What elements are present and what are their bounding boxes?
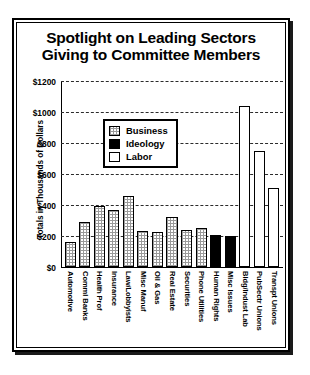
- bar-slot: [165, 81, 180, 267]
- x-axis-labels: AutomotiveComml BanksHealth ProfInsuranc…: [61, 269, 283, 351]
- bar-pubsectr-unions: [254, 151, 265, 267]
- x-axis-tick-label: Insurance: [109, 271, 118, 306]
- bar-series: [61, 81, 283, 267]
- legend-item: Labor: [109, 150, 168, 163]
- chart-title-line-1: Spotlight on Leading Sectors: [17, 29, 285, 46]
- x-axis-tick-label: Oil & Gas: [153, 271, 162, 304]
- x-axis-tick-label: Phone Utilities: [197, 271, 206, 322]
- y-axis-tick-label: $0: [47, 263, 56, 273]
- x-label-slot: Bldg/Indust Lab: [237, 269, 252, 351]
- legend-swatch-labor: [109, 152, 120, 162]
- y-axis-tick-label: $800: [37, 139, 56, 149]
- chart-title: Spotlight on Leading Sectors Giving to C…: [17, 29, 285, 64]
- y-axis-tick-label: $1000: [33, 108, 56, 118]
- y-axis-tick-label: $600: [37, 170, 56, 180]
- x-label-slot: Comml Banks: [78, 269, 93, 351]
- x-label-slot: Phone Utilities: [194, 269, 209, 351]
- legend-label: Labor: [126, 151, 152, 162]
- bar-slot: [150, 81, 165, 267]
- bar-slot: [63, 81, 78, 267]
- bar-slot: [107, 81, 122, 267]
- bar-misc-manuf: [137, 231, 148, 267]
- y-axis-tick-label: $1200: [33, 77, 56, 87]
- bar-automotive: [65, 242, 76, 267]
- x-label-slot: Human Rights: [208, 269, 223, 351]
- legend-swatch-business: [109, 126, 120, 136]
- x-label-slot: Law/Lobbyists: [121, 269, 136, 351]
- bar-slot: [194, 81, 209, 267]
- bar-law-lobbyists: [123, 196, 134, 267]
- bar-slot: [136, 81, 151, 267]
- x-axis-tick-label: Automotive: [66, 271, 75, 312]
- bar-securities: [181, 230, 192, 267]
- chart-inner-frame: Spotlight on Leading Sectors Giving to C…: [16, 22, 286, 348]
- gridline: $0: [61, 267, 283, 268]
- x-label-slot: Insurance: [107, 269, 122, 351]
- x-axis-tick-label: Human Rights: [211, 271, 220, 321]
- bar-bldg-indust-lab: [239, 106, 250, 267]
- bar-slot: [223, 81, 238, 267]
- bar-slot: [237, 81, 252, 267]
- bar-slot: [208, 81, 223, 267]
- y-axis-tick-label: $200: [37, 232, 56, 242]
- bar-slot: [78, 81, 93, 267]
- x-label-slot: Oil & Gas: [150, 269, 165, 351]
- chart-panel: Spotlight on Leading Sectors Giving to C…: [12, 18, 290, 352]
- legend-label: Business: [126, 125, 168, 136]
- x-axis-tick-label: Misc Manuf: [138, 271, 147, 311]
- x-label-slot: Health Prof: [92, 269, 107, 351]
- x-axis-tick-label: Comml Banks: [80, 271, 89, 321]
- bar-oil-gas: [152, 232, 163, 267]
- x-axis-tick-label: Securities: [182, 271, 191, 306]
- legend-item: Business: [109, 124, 168, 137]
- x-axis-tick-label: PubSectr Unions: [255, 271, 264, 331]
- bar-real-estate: [166, 217, 177, 267]
- chart-title-line-2: Giving to Committee Members: [17, 46, 285, 63]
- legend-swatch-ideology: [109, 139, 120, 149]
- x-label-slot: PubSectr Unions: [252, 269, 267, 351]
- plot-area: $1200$1000$800$600$400$200$0: [61, 81, 283, 267]
- chart-legend: BusinessIdeologyLabor: [103, 119, 178, 168]
- bar-transpt-unions: [268, 188, 279, 267]
- bar-slot: [92, 81, 107, 267]
- bar-slot: [252, 81, 267, 267]
- x-axis-tick-label: Health Prof: [95, 271, 104, 310]
- bar-phone-utilities: [196, 228, 207, 267]
- x-label-slot: Misc Manuf: [136, 269, 151, 351]
- bar-slot: [266, 81, 281, 267]
- legend-label: Ideology: [126, 138, 165, 149]
- x-axis-tick-label: Bldg/Indust Lab: [240, 271, 249, 327]
- x-label-slot: Transpt Unions: [266, 269, 281, 351]
- y-axis-tick-label: $400: [37, 201, 56, 211]
- bar-human-rights: [210, 235, 221, 267]
- x-axis-tick-label: Transpt Unions: [269, 271, 278, 325]
- x-axis-tick-label: Misc Issues: [226, 271, 235, 313]
- legend-item: Ideology: [109, 137, 168, 150]
- bar-slot: [121, 81, 136, 267]
- bar-health-prof: [94, 206, 105, 267]
- x-label-slot: Misc Issues: [223, 269, 238, 351]
- bar-slot: [179, 81, 194, 267]
- x-label-slot: Automotive: [63, 269, 78, 351]
- bar-insurance: [108, 210, 119, 267]
- x-label-slot: Securities: [179, 269, 194, 351]
- x-axis-tick-label: Real Estate: [167, 271, 176, 311]
- x-label-slot: Real Estate: [165, 269, 180, 351]
- bar-misc-issues: [225, 236, 236, 267]
- x-axis-tick-label: Law/Lobbyists: [124, 271, 133, 322]
- bar-comml-banks: [79, 222, 90, 267]
